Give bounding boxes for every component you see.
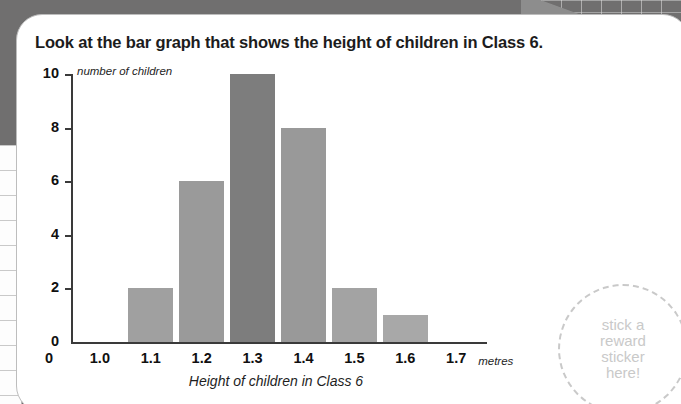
y-tick-label: 8 [35,119,59,135]
bar-1-3 [230,74,275,342]
worksheet-card: Look at the bar graph that shows the hei… [16,14,681,404]
bar-1-4 [281,128,326,342]
x-tick-label: 1.1 [131,350,171,366]
x-tick-label: 1.4 [284,350,324,366]
x-axis-caption: Height of children in Class 6 [126,373,426,389]
x-tick-label: 1.7 [436,350,476,366]
reward-sticker-placeholder[interactable]: stick a reward sticker here! [558,284,681,404]
x-tick-label: 1.0 [80,350,120,366]
y-tick-mark [65,74,72,76]
reward-sticker-label: stick a reward sticker here! [600,317,646,381]
x-tick-label: 1.2 [182,350,222,366]
y-tick-label: 0 [35,333,59,349]
y-tick-mark [65,128,72,130]
x-tick-label: 0 [29,350,69,366]
y-tick-label: 4 [35,226,59,242]
y-tick-label: 6 [35,172,59,188]
x-tick-label: 1.5 [334,350,374,366]
x-axis-line [71,342,487,344]
x-axis-unit-label: metres [478,355,513,367]
x-tick-label: 1.3 [233,350,273,366]
bar-1-6 [383,315,428,342]
bar-1-5 [332,288,377,342]
y-axis-label: number of children [77,65,172,77]
y-tick-label: 10 [35,65,59,81]
y-tick-mark [65,181,72,183]
x-tick-label: 1.6 [385,350,425,366]
y-axis-line [71,74,73,344]
y-tick-mark [65,288,72,290]
y-tick-mark [65,235,72,237]
bar-1-1 [128,288,173,342]
bar-1-2 [179,181,224,342]
y-tick-label: 2 [35,279,59,295]
